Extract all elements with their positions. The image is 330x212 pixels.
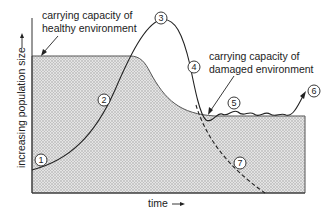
marker-5: 5 xyxy=(228,97,240,109)
svg-text:5: 5 xyxy=(231,98,236,108)
population-diagram: carrying capacity of healthy environment… xyxy=(0,0,330,212)
damaged-label-1: carrying capacity of xyxy=(209,50,300,62)
y-axis-label: increasing population size xyxy=(15,47,27,168)
healthy-label-2: healthy environment xyxy=(42,22,137,34)
svg-text:4: 4 xyxy=(191,62,196,72)
svg-text:7: 7 xyxy=(237,158,242,168)
marker-1: 1 xyxy=(35,154,47,166)
damaged-label-2: damaged environment xyxy=(209,63,314,75)
svg-text:2: 2 xyxy=(101,95,106,105)
marker-4: 4 xyxy=(188,61,200,73)
marker-3: 3 xyxy=(155,12,167,24)
svg-text:3: 3 xyxy=(158,13,163,23)
svg-text:6: 6 xyxy=(311,86,316,96)
marker-2: 2 xyxy=(98,94,110,106)
healthy-label-1: carrying capacity of xyxy=(42,9,133,21)
arrowhead-6 xyxy=(300,91,306,99)
marker-6: 6 xyxy=(308,85,320,97)
x-axis-label: time xyxy=(148,197,168,209)
y-axis-arrowhead xyxy=(20,33,24,38)
x-axis-arrowhead xyxy=(180,202,185,206)
healthy-arrow xyxy=(44,36,58,52)
marker-7: 7 xyxy=(234,157,246,169)
carrying-capacity-region xyxy=(32,56,305,193)
svg-text:1: 1 xyxy=(38,155,43,165)
